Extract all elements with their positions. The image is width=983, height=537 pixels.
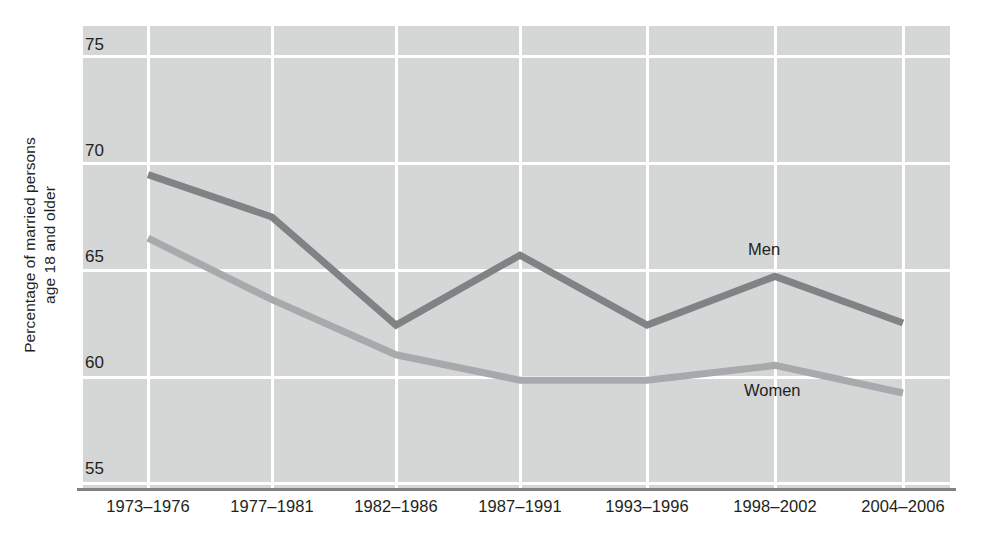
series-label-women: Women	[744, 381, 801, 399]
gridline-vertical-1987-1991	[519, 26, 522, 488]
gridline-horizontal-75	[83, 55, 950, 58]
y-tick-label-60: 60	[85, 354, 125, 371]
x-tick-label-1977-1981: 1977–1981	[207, 497, 337, 515]
y-axis-title-line-1: Percentage of married persons	[20, 137, 40, 353]
plot-area	[83, 26, 950, 488]
gridline-vertical-1982-1986	[395, 26, 398, 488]
gridline-vertical-1973-1976	[147, 26, 150, 488]
series-label-men: Men	[748, 240, 780, 258]
x-tick-label-1993-1996: 1993–1996	[582, 497, 712, 515]
chart-figure: Percentage of married persons age 18 and…	[0, 0, 983, 537]
gridline-horizontal-65	[83, 269, 950, 272]
x-tick-label-1973-1976: 1973–1976	[83, 497, 213, 515]
x-tick-label-1987-1991: 1987–1991	[455, 497, 585, 515]
x-tick-label-2004-2006: 2004–2006	[838, 497, 968, 515]
y-tick-label-55: 55	[85, 460, 125, 477]
x-tick-label-1998-2002: 1998–2002	[710, 497, 840, 515]
gridline-horizontal-55	[83, 482, 950, 485]
y-axis-title-line-2: age 18 and older	[40, 137, 60, 353]
gridline-vertical-2004-2006	[902, 26, 905, 488]
y-axis-title: Percentage of married persons age 18 and…	[0, 0, 80, 490]
gridline-horizontal-60	[83, 376, 950, 379]
gridline-horizontal-70	[83, 162, 950, 165]
y-tick-label-70: 70	[85, 142, 125, 159]
x-axis-line	[77, 488, 956, 491]
gridline-vertical-1977-1981	[271, 26, 274, 488]
x-tick-label-1982-1986: 1982–1986	[331, 497, 461, 515]
gridline-vertical-1993-1996	[646, 26, 649, 488]
y-tick-label-65: 65	[85, 248, 125, 265]
y-tick-label-75: 75	[85, 36, 125, 53]
